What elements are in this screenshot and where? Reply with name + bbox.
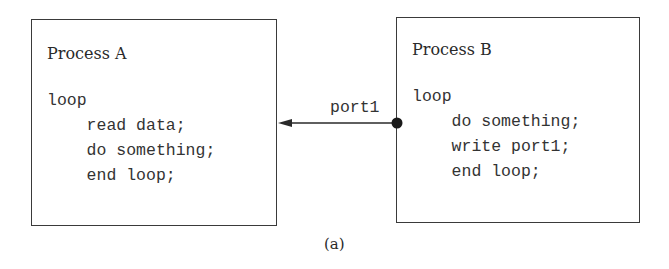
port-dot-icon — [392, 118, 403, 129]
figure-caption: (a) — [324, 235, 345, 253]
connection-arrow — [0, 0, 669, 269]
arrowhead-icon — [278, 119, 292, 127]
port-label: port1 — [330, 98, 380, 117]
